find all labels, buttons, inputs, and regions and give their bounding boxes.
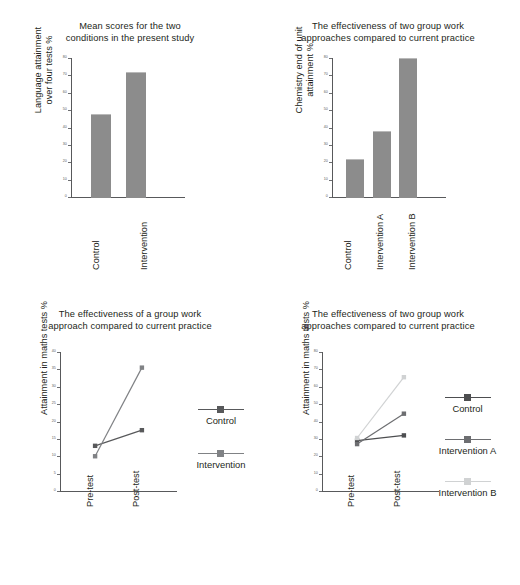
y-axis-label-line-1: Chemistry end of unit (294, 0, 305, 140)
data-point-intervention-b (355, 436, 359, 440)
y-axis-tick-label: 0 (316, 489, 318, 493)
line-series-group (60, 352, 177, 491)
y-axis-label-line-1: Attainment in maths tests % (39, 290, 50, 426)
y-axis-tick (68, 58, 71, 59)
y-axis-tick-label: 50 (324, 108, 328, 112)
y-axis-tick-label: 35 (52, 368, 56, 372)
y-axis-tick-label: 10 (63, 178, 67, 182)
legend-item-control[interactable]: Control (415, 392, 520, 415)
data-point-intervention-a (402, 411, 406, 415)
legend-marker-control (445, 392, 491, 402)
legend-marker-intervention (198, 448, 244, 458)
legend-item-intervention-b[interactable]: Intervention B (415, 476, 520, 499)
chart-title-mean-scores: Mean scores for the two conditions in th… (30, 20, 230, 45)
y-axis-tick-label: 30 (52, 385, 56, 389)
y-axis-tick-label: 50 (63, 108, 67, 112)
x-tick-label-pre-test: Pre-test (346, 475, 356, 507)
y-axis-tick-label: 20 (63, 160, 67, 164)
bar-intervention-a (373, 131, 391, 198)
x-tick-label-control: Control (343, 240, 353, 270)
data-point-intervention (140, 365, 144, 369)
y-axis-tick-label: 40 (314, 420, 318, 424)
y-axis-tick-label: 80 (324, 56, 328, 60)
data-point-control (402, 433, 406, 437)
y-axis-tick (68, 75, 71, 76)
legend-marker-intervention-a (445, 434, 491, 444)
y-axis-tick-label: 80 (314, 350, 318, 354)
y-axis-tick-label: 20 (314, 454, 318, 458)
y-axis-tick (329, 145, 332, 146)
plot-area-chemistry-unit: 01020304050607080 (332, 58, 446, 197)
legend-label-intervention: Intervention (182, 459, 260, 471)
y-axis-label-line-2: attainment % (305, 0, 316, 140)
y-axis-line (332, 58, 333, 197)
data-point-control (140, 428, 144, 432)
y-axis-line (71, 58, 72, 197)
y-axis-tick-label: 40 (324, 126, 328, 130)
y-axis-tick (319, 491, 322, 492)
y-axis-label-line-1: Language attainment (33, 0, 44, 140)
y-axis-label-chemistry-unit: Chemistry end of unit attainment % (294, 0, 318, 140)
y-axis-tick (329, 75, 332, 76)
x-axis-line (60, 491, 177, 492)
y-axis-tick (329, 58, 332, 59)
legend-label-control: Control (182, 415, 260, 427)
y-axis-label-mean-scores: Language attainment over four tests % (33, 0, 57, 140)
y-axis-label-line-1: Attainment in maths tests % (301, 290, 312, 426)
y-axis-tick (329, 128, 332, 129)
data-point-intervention-b (402, 375, 406, 379)
legend-item-intervention-a[interactable]: Intervention A (415, 434, 520, 457)
y-axis-tick-label: 40 (63, 126, 67, 130)
legend-item-control[interactable]: Control (182, 404, 260, 427)
y-axis-tick-label: 60 (63, 91, 67, 95)
y-axis-tick (329, 110, 332, 111)
y-axis-tick-label: 10 (314, 472, 318, 476)
legend-label-intervention-a: Intervention A (415, 445, 520, 457)
y-axis-tick-label: 20 (324, 160, 328, 164)
y-axis-tick (329, 162, 332, 163)
line-intervention (95, 368, 142, 457)
y-axis-tick (68, 93, 71, 94)
chart-panel-maths-two-interventions: The effectiveness of two group work appr… (260, 292, 520, 585)
x-tick-label-pre-test: Pre-test (85, 475, 95, 507)
y-axis-label-line-2: over four tests % (44, 0, 55, 140)
chart-panel-maths-one-intervention: The effectiveness of a group work approa… (0, 292, 260, 585)
bar-intervention (126, 72, 146, 198)
legend-marker-control (198, 404, 244, 414)
y-axis-label-maths-one-intervention: Attainment in maths tests % (39, 290, 51, 426)
chart-panel-chemistry-unit: The effectiveness of two group work appr… (260, 0, 520, 292)
y-axis-tick-label: 80 (63, 56, 67, 60)
y-axis-tick-label: 20 (52, 420, 56, 424)
y-axis-tick (329, 93, 332, 94)
plot-area-maths-two-interventions: 01020304050607080 (322, 352, 439, 491)
plot-area-maths-one-intervention: 0510152025303540 (60, 352, 177, 491)
y-axis-tick-label: 0 (54, 489, 56, 493)
legend-item-intervention[interactable]: Intervention (182, 448, 260, 471)
y-axis-tick (57, 491, 60, 492)
line-series-group (322, 352, 439, 491)
y-axis-tick-label: 0 (65, 195, 67, 199)
y-axis-tick-label: 70 (324, 74, 328, 78)
x-tick-label-post-test: Post-test (392, 471, 402, 507)
data-point-intervention (93, 454, 97, 458)
y-axis-tick (68, 128, 71, 129)
y-axis-tick-label: 30 (324, 143, 328, 147)
bar-control (91, 114, 111, 198)
legend-marker-intervention-b (445, 476, 491, 486)
y-axis-tick-label: 10 (52, 454, 56, 458)
x-tick-label-intervention: Intervention (139, 222, 149, 270)
y-axis-tick-label: 10 (324, 178, 328, 182)
bar-control (346, 159, 364, 198)
y-axis-tick (68, 180, 71, 181)
y-axis-tick-label: 50 (314, 402, 318, 406)
y-axis-tick-label: 15 (52, 437, 56, 441)
y-axis-tick-label: 0 (326, 195, 328, 199)
legend-label-control: Control (415, 403, 520, 415)
y-axis-tick-label: 40 (52, 350, 56, 354)
y-axis-tick-label: 30 (63, 143, 67, 147)
y-axis-label-maths-two-interventions: Attainment in maths tests % (301, 290, 313, 426)
y-axis-tick-label: 5 (54, 472, 56, 476)
y-axis-tick-label: 60 (324, 91, 328, 95)
y-axis-tick (68, 197, 71, 198)
y-axis-tick (68, 162, 71, 163)
